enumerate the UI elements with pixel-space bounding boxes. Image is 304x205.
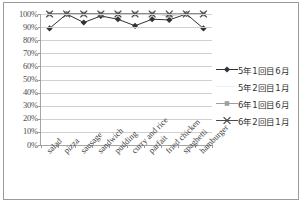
y-tick-mark	[38, 66, 41, 67]
y-tick-mark	[38, 106, 41, 107]
gridline	[41, 27, 212, 28]
legend-item-label: 6年1回目6月	[238, 98, 290, 110]
chart-canvas: 0%10%20%30%40%50%60%70%80%90%100% saladp…	[4, 3, 300, 201]
y-tick-label: 50%	[8, 75, 38, 84]
legend-item-label: 5年2回目1月	[238, 81, 290, 93]
x-axis: saladpizzasausagesandwichpuddingcurry an…	[40, 149, 220, 201]
gridline	[41, 53, 212, 54]
chart-legend: 5年1回目6月5年2回目1月6年1回目6月6年2回目1月	[216, 61, 298, 129]
y-tick-label: 20%	[8, 114, 38, 123]
gridline	[41, 14, 212, 15]
y-tick-mark	[38, 119, 41, 120]
y-tick-mark	[38, 53, 41, 54]
legend-marker-icon	[216, 115, 238, 126]
y-tick-label: 60%	[8, 62, 38, 71]
gridline	[41, 40, 212, 41]
y-tick-mark	[38, 132, 41, 133]
chart-frame: 0%10%20%30%40%50%60%70%80%90%100% saladp…	[3, 2, 299, 200]
legend-marker-icon	[216, 64, 238, 75]
gridline	[41, 66, 212, 67]
y-tick-mark	[38, 27, 41, 28]
legend-item[interactable]: 6年1回目6月	[216, 95, 298, 112]
gridline	[41, 93, 212, 94]
gridline	[41, 106, 212, 107]
y-tick-mark	[38, 14, 41, 15]
legend-item[interactable]: 6年2回目1月	[216, 112, 298, 129]
legend-marker-icon	[216, 98, 238, 109]
legend-item[interactable]: 5年2回目1月	[216, 78, 298, 95]
gridline	[41, 119, 212, 120]
legend-marker-icon	[216, 81, 238, 92]
y-axis: 0%10%20%30%40%50%60%70%80%90%100%	[8, 5, 38, 145]
y-tick-mark	[38, 80, 41, 81]
data-point-marker	[166, 17, 172, 23]
y-tick-label: 90%	[8, 23, 38, 32]
y-tick-mark	[38, 93, 41, 94]
y-tick-label: 30%	[8, 101, 38, 110]
x-tick-mark	[41, 145, 42, 148]
legend-item[interactable]: 5年1回目6月	[216, 61, 298, 78]
legend-item-label: 5年1回目6月	[238, 64, 290, 76]
y-tick-mark	[38, 40, 41, 41]
y-tick-label: 80%	[8, 36, 38, 45]
y-tick-label: 10%	[8, 127, 38, 136]
y-tick-label: 100%	[8, 10, 38, 19]
y-tick-label: 70%	[8, 49, 38, 58]
y-tick-label: 40%	[8, 88, 38, 97]
gridline	[41, 80, 212, 81]
data-point-marker	[81, 19, 87, 25]
legend-item-label: 6年2回目1月	[238, 115, 290, 127]
y-tick-label: 0%	[8, 141, 38, 150]
